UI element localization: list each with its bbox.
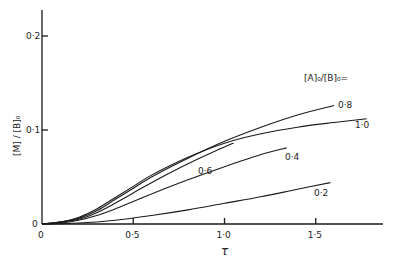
axis-ticks: 0·51·01·500·10·20 [26,31,322,240]
x-tick-label: 0·5 [125,230,139,240]
curve-label: 0·2 [314,188,328,198]
y-tick-label: 0·1 [26,125,40,135]
x-tick-label: 1·0 [217,230,232,240]
y-tick-label: 0·2 [26,31,40,41]
series-curve [42,148,287,224]
x-tick-label: 0 [38,230,44,240]
curves [42,106,367,224]
curve-label: 0·8 [338,100,353,110]
series-curve [42,106,334,224]
legend-title: [A]₀/[B]₀= [304,73,348,83]
curve-label: 1·0 [355,120,370,130]
chart-canvas: 0·51·01·500·10·20 0·81·00·60·40·2 [A]₀/[… [0,0,394,268]
y-tick-label: 0 [32,219,38,229]
x-axis-label: τ [221,244,229,258]
curve-label: 0·4 [285,152,300,162]
curve-label: 0·6 [198,166,213,176]
x-tick-label: 1·5 [308,230,322,240]
y-axis-label: [M] / [B]₀ [12,115,22,156]
